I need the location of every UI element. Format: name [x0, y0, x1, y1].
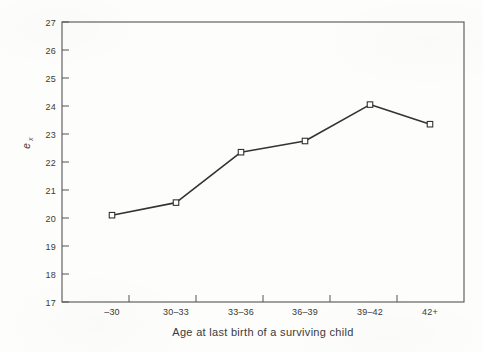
- line-chart-svg: 27 26 25 24 23 22 21 20 19: [0, 0, 483, 352]
- x-tick-label-3: 36–39: [292, 307, 318, 317]
- data-point-5: [427, 121, 433, 127]
- x-tick-label-1: 30–33: [163, 307, 189, 317]
- data-point-3: [302, 138, 308, 144]
- plot-frame: [62, 22, 464, 302]
- data-point-0: [109, 212, 115, 218]
- y-tick-label-17: 17: [46, 298, 56, 308]
- data-point-4: [367, 102, 373, 108]
- y-tick-label-25: 25: [46, 74, 56, 84]
- plot-area-border: [62, 22, 464, 302]
- x-tick-label-2: 33–36: [228, 307, 254, 317]
- x-tick-label-5: 42+: [422, 307, 438, 317]
- y-tick-label-19: 19: [46, 242, 56, 252]
- x-tick-label-4: 39–42: [357, 307, 383, 317]
- y-axis-title: e x: [21, 137, 34, 149]
- y-tick-label-26: 26: [46, 46, 56, 56]
- y-tick-label-22: 22: [46, 158, 56, 168]
- x-tick-label-0: –30: [104, 307, 120, 317]
- x-axis-title: Age at last birth of a surviving child: [172, 326, 353, 338]
- data-point-2: [238, 149, 244, 155]
- chart-figure: 27 26 25 24 23 22 21 20 19: [0, 0, 483, 352]
- y-axis-title-base: e: [21, 143, 32, 149]
- y-axis-title-subscript: x: [27, 137, 34, 142]
- data-point-1: [173, 200, 179, 206]
- y-tick-label-24: 24: [46, 102, 56, 112]
- y-tick-label-18: 18: [46, 270, 56, 280]
- y-tick-label-20: 20: [46, 214, 56, 224]
- y-tick-label-23: 23: [46, 130, 56, 140]
- y-tick-label-21: 21: [46, 186, 56, 196]
- y-tick-label-27: 27: [46, 18, 56, 28]
